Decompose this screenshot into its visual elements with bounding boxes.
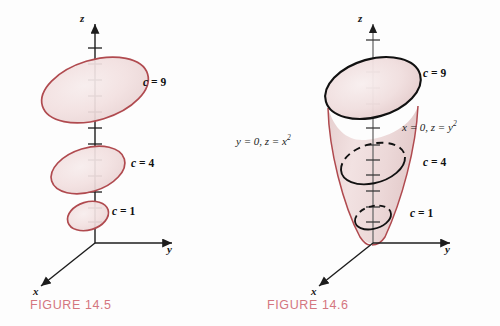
level-label-9-value: 9 bbox=[440, 67, 446, 79]
trace-label-left: y = 0, z = x2 bbox=[236, 133, 291, 147]
level-label-4: c = 4 bbox=[423, 156, 446, 168]
x-axis bbox=[41, 243, 95, 286]
x-axis-label: x bbox=[311, 285, 317, 297]
level-label-1-var: c bbox=[112, 205, 117, 217]
level-label-4-var: c bbox=[423, 156, 428, 168]
level-label-4-value: 4 bbox=[440, 156, 446, 168]
z-axis-label: z bbox=[358, 12, 362, 24]
level-label-1: c = 1 bbox=[112, 205, 135, 217]
level-label-9-value: 9 bbox=[160, 76, 166, 88]
level-label-1: c = 1 bbox=[410, 207, 433, 219]
figure-caption-left: FIGURE 14.5 bbox=[30, 298, 112, 312]
level-curve-9 bbox=[318, 47, 428, 130]
level-label-9-eq: = bbox=[431, 67, 438, 79]
y-axis-label: y bbox=[445, 243, 450, 255]
level-label-1-var: c bbox=[410, 207, 415, 219]
level-curve-9 bbox=[34, 45, 157, 135]
figure-caption-right: FIGURE 14.6 bbox=[267, 298, 349, 312]
x-axis-label: x bbox=[33, 285, 39, 297]
level-label-9-var: c bbox=[423, 67, 428, 79]
x-axis bbox=[319, 243, 373, 286]
figure-panel-right: z y x y = 0, z = x2 x = 0, z = y2 c = 9 … bbox=[250, 0, 500, 326]
trace-label-left-text: y = 0, z = x bbox=[236, 135, 287, 147]
level-label-9: c = 9 bbox=[423, 67, 446, 79]
level-label-4-eq: = bbox=[431, 156, 438, 168]
level-label-4-value: 4 bbox=[148, 157, 154, 169]
level-label-4-var: c bbox=[131, 157, 136, 169]
y-axis-label: y bbox=[167, 243, 172, 255]
figure-panel-left: z y x c = 9 c = 4 c = 1 FIGURE 14.5 bbox=[0, 0, 250, 326]
level-label-1-value: 1 bbox=[129, 205, 135, 217]
z-axis-label: z bbox=[80, 12, 84, 24]
figure-page: z y x c = 9 c = 4 c = 1 FIGURE 14.5 bbox=[0, 0, 500, 326]
trace-label-right: x = 0, z = y2 bbox=[402, 119, 457, 133]
trace-label-right-text: x = 0, z = y bbox=[402, 121, 453, 133]
level-label-9-var: c bbox=[143, 76, 148, 88]
level-label-1-value: 1 bbox=[427, 207, 433, 219]
level-curve-4 bbox=[45, 138, 131, 202]
figure-14-5-graphic bbox=[0, 0, 250, 300]
level-label-9-eq: = bbox=[151, 76, 158, 88]
level-label-1-eq: = bbox=[418, 207, 425, 219]
trace-label-right-exponent: 2 bbox=[453, 119, 457, 128]
level-label-4-eq: = bbox=[139, 157, 146, 169]
level-label-4: c = 4 bbox=[131, 157, 154, 169]
level-label-9: c = 9 bbox=[143, 76, 166, 88]
figure-14-6-graphic bbox=[250, 0, 500, 300]
trace-label-left-exponent: 2 bbox=[287, 133, 291, 142]
level-label-1-eq: = bbox=[120, 205, 127, 217]
level-curve-1 bbox=[64, 196, 112, 235]
